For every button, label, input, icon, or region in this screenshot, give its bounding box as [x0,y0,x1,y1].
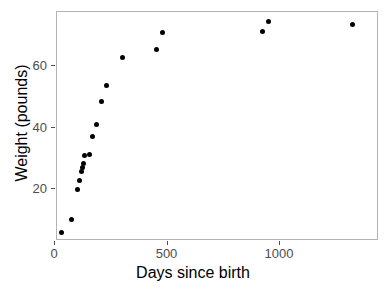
data-point [94,122,99,127]
data-point [350,22,355,27]
data-point [87,152,92,157]
x-tick [167,241,168,245]
data-point [90,134,95,139]
data-point [75,187,80,192]
y-axis-title: Weight (pounds) [13,13,31,233]
x-tick-label: 0 [50,246,57,261]
data-point [120,55,125,60]
y-tick-label: 60 [33,58,47,73]
y-tick [51,127,55,128]
y-tick [51,188,55,189]
x-tick [54,241,55,245]
data-point [77,178,82,183]
y-tick-label: 40 [33,119,47,134]
data-point [104,83,109,88]
x-tick-label: 500 [156,246,178,261]
data-point [266,19,271,24]
data-point [69,217,74,222]
data-point [80,165,85,170]
data-point [154,47,159,52]
data-point-layer [57,12,377,239]
data-point [81,161,86,166]
x-axis-title: Days since birth [0,264,386,282]
x-tick [279,241,280,245]
data-point [99,99,104,104]
x-tick-label: 1000 [265,246,294,261]
data-point [79,169,84,174]
plot-panel [56,11,378,240]
y-tick-label: 20 [33,181,47,196]
y-tick [51,65,55,66]
data-point [260,29,265,34]
data-point [59,230,64,235]
scatter-plot-figure: 05001000 204060 Days since birth Weight … [0,0,386,298]
data-point [160,30,165,35]
